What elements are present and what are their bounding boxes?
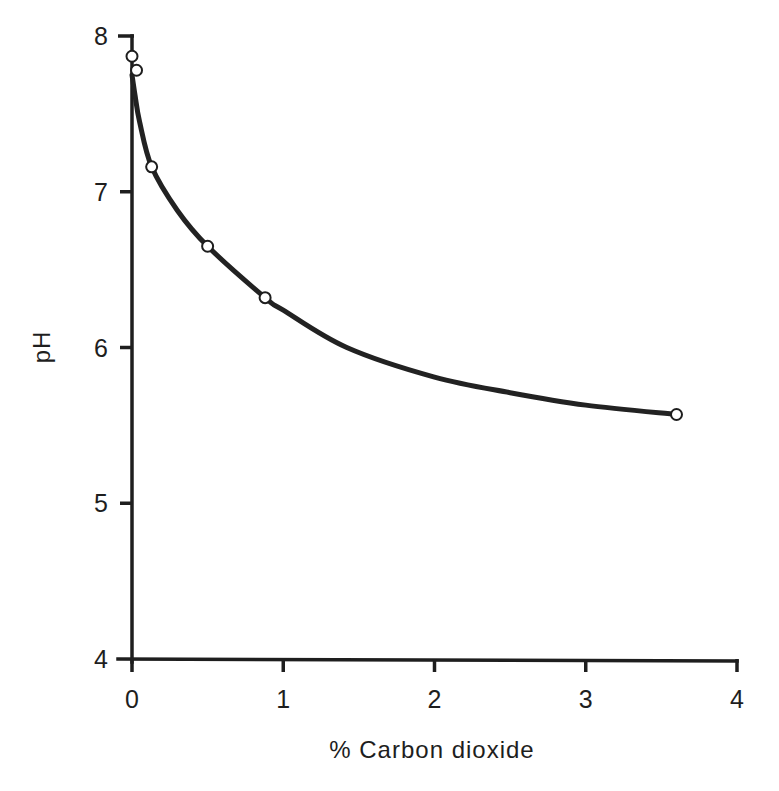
axes [118, 36, 737, 662]
x-tick-label: 4 [730, 685, 744, 713]
x-ticks: 01234 [125, 659, 744, 713]
y-tick-label: 7 [94, 178, 108, 206]
data-point [131, 65, 142, 76]
y-axis-title: pH [28, 331, 55, 364]
y-tick-label: 4 [94, 645, 108, 673]
y-tick-label: 5 [94, 489, 108, 517]
data-point [260, 292, 271, 303]
x-axis-line [118, 659, 737, 661]
chart: 45678 01234 % Carbon dioxide pH [0, 0, 779, 791]
data-point [146, 161, 157, 172]
x-tick-label: 0 [125, 685, 139, 713]
y-ticks: 45678 [94, 22, 134, 673]
data-point [671, 409, 682, 420]
x-tick-label: 2 [428, 685, 442, 713]
y-tick-label: 8 [94, 22, 108, 50]
x-tick-label: 1 [276, 685, 290, 713]
x-tick-label: 3 [579, 685, 593, 713]
data-point [202, 241, 213, 252]
y-tick-label: 6 [94, 334, 108, 362]
data-points [127, 51, 683, 420]
data-point [127, 51, 138, 62]
x-axis-title: % Carbon dioxide [329, 736, 534, 763]
